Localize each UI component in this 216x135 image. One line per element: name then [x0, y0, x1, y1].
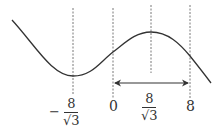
interval-arrow — [114, 80, 189, 87]
label-neg-8-over-root3: 8 √3 — [63, 97, 80, 129]
graph-svg — [0, 0, 216, 135]
diagram-canvas: − 8 √3 0 8 √3 8 — [0, 0, 216, 135]
label-eight: 8 — [186, 99, 195, 113]
fraction-denominator: √3 — [141, 108, 158, 124]
minus-sign-label: − — [49, 104, 60, 119]
fraction-numerator: 8 — [142, 92, 156, 108]
label-zero: 0 — [109, 99, 118, 113]
label-8-over-root3: 8 √3 — [141, 92, 158, 124]
fraction-numerator: 8 — [64, 97, 78, 113]
fraction-denominator: √3 — [63, 113, 80, 129]
function-curve — [12, 20, 211, 83]
